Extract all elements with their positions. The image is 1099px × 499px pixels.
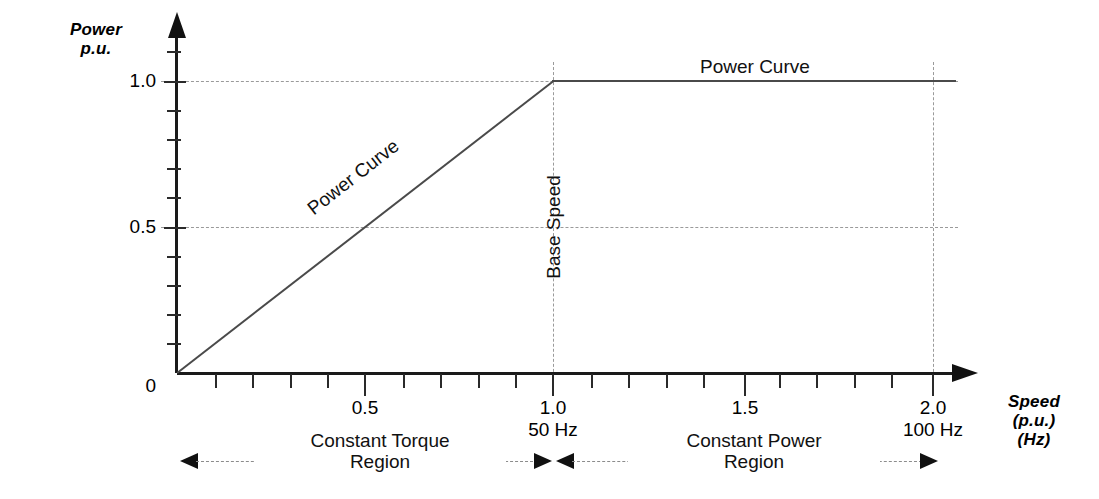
x-tick-minor [327,374,329,388]
x-tick-sublabel-50hz: 50 Hz [503,419,603,441]
x-tick-minor [854,374,856,388]
x-tick-minor [515,374,517,388]
x-axis-title: Speed (p.u.) (Hz) [978,392,1090,449]
y-tick-minor [167,51,181,53]
y-tick-minor [167,343,181,345]
y-tick-minor [167,110,181,112]
power-curve-flat-segment [552,80,956,82]
x-tick-minor [478,374,480,388]
y-tick-minor [167,168,181,170]
y-tick-minor [167,256,181,258]
base-speed-label: Base Speed [543,162,565,292]
y-tick-minor [167,197,181,199]
y-tick-0.5 [164,227,186,229]
chart-canvas: Power p.u. Speed (p.u.) (Hz) 1.0 0.5 0 [0,0,1099,499]
y-axis-arrowhead [168,12,186,38]
x-tick-minor [290,374,292,388]
y-axis-title: Power p.u. [36,20,156,58]
y-tick-label-0: 0 [78,375,156,397]
x-tick-2.0 [932,374,934,396]
x-tick-minor [252,374,254,388]
x-tick-0.5 [364,374,366,396]
x-tick-minor [215,374,217,388]
x-tick-1.5 [744,374,746,396]
x-tick-label-2.0: 2.0 [883,397,983,419]
x-tick-minor [591,374,593,388]
power-curve-flat-label: Power Curve [700,56,810,78]
x-tick-minor [628,374,630,388]
x-tick-1.0 [552,374,554,396]
x-tick-minor [779,374,781,388]
x-tick-minor [440,374,442,388]
x-tick-sublabel-100hz: 100 Hz [883,419,983,441]
x-tick-label-0.5: 0.5 [315,397,415,419]
x-tick-minor [816,374,818,388]
constant-power-right-arrowhead [920,453,938,469]
x-axis-line [177,372,960,375]
x-tick-minor [891,374,893,388]
y-tick-minor [167,314,181,316]
gridline-vertical-2.0 [933,62,934,387]
x-tick-label-1.5: 1.5 [695,397,795,419]
y-tick-minor [167,139,181,141]
x-tick-label-1.0: 1.0 [503,397,603,419]
x-tick-minor [666,374,668,388]
y-tick-1.0 [164,81,186,83]
x-tick-minor [703,374,705,388]
constant-power-region-label: Constant Power Region [628,430,880,473]
y-tick-minor [167,285,181,287]
x-tick-minor [403,374,405,388]
x-axis-arrowhead [952,364,978,382]
y-tick-label-1.0: 1.0 [78,70,156,92]
constant-torque-region-label: Constant Torque Region [254,430,506,473]
constant-torque-right-arrowhead [534,453,552,469]
y-tick-label-0.5: 0.5 [78,216,156,238]
y-axis-line [175,32,178,373]
